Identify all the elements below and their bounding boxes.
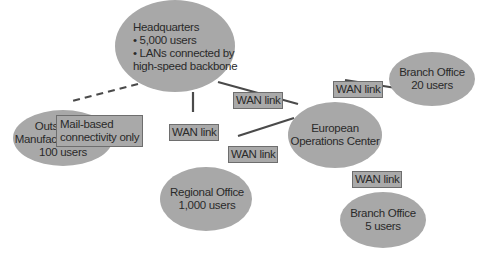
node-branch-office-5: Branch Office 5 users bbox=[342, 205, 424, 235]
edge-label-hq-outsourced: Mail-based connectivity only bbox=[56, 115, 143, 147]
mail-label-line2: connectivity only bbox=[60, 131, 139, 144]
branch20-title: Branch Office bbox=[399, 66, 465, 79]
hq-backbone: high-speed backbone bbox=[133, 60, 237, 73]
hq-users: • 5,000 users bbox=[133, 34, 196, 47]
regional-title: Regional Office bbox=[170, 186, 244, 199]
branch5-users: 5 users bbox=[365, 220, 401, 233]
node-european-operations-center: European Operations Center bbox=[285, 120, 385, 150]
european-title: European bbox=[311, 122, 358, 135]
hq-title: Headquarters bbox=[133, 21, 199, 34]
european-title2: Operations Center bbox=[291, 135, 380, 148]
edge-hq-outsourced bbox=[72, 84, 138, 101]
node-regional-office: Regional Office 1,000 users bbox=[162, 184, 252, 214]
edge-label-hq-european: WAN link bbox=[233, 92, 283, 109]
edge-label-hq-regional: WAN link bbox=[169, 124, 219, 141]
edge-label-regional-european: WAN link bbox=[228, 146, 278, 163]
branch20-users: 20 users bbox=[411, 79, 453, 92]
branch5-title: Branch Office bbox=[350, 207, 416, 220]
hq-lans: • LANs connected by bbox=[133, 47, 234, 60]
edge-label-european-branch5: WAN link bbox=[352, 171, 402, 188]
node-branch-office-20: Branch Office 20 users bbox=[392, 64, 472, 94]
regional-users: 1,000 users bbox=[179, 199, 236, 212]
outsourced-users: 100 users bbox=[39, 146, 87, 159]
network-diagram: Headquarters • 5,000 users • LANs connec… bbox=[0, 0, 486, 256]
edge-label-european-branch20: WAN link bbox=[333, 81, 383, 98]
mail-label-line1: Mail-based bbox=[60, 118, 139, 131]
node-headquarters: Headquarters • 5,000 users • LANs connec… bbox=[133, 20, 243, 74]
